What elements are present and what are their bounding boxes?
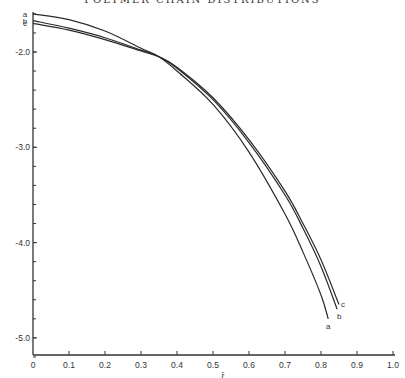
curve-end-label-a: a — [326, 322, 331, 331]
line-chart: 00.10.20.30.40.50.60.70.80.91.0-2.0-3.0-… — [0, 0, 405, 378]
curve-c — [33, 23, 339, 304]
x-tick-label: 0.9 — [351, 360, 363, 370]
y-tick-label: -5.0 — [15, 333, 30, 343]
curve-end-label-c: c — [341, 300, 345, 309]
curve-start-label-c: c — [23, 19, 27, 28]
y-tick-label: -2.0 — [15, 47, 30, 57]
x-tick-label: 0 — [31, 360, 36, 370]
x-tick-label: 1.0 — [387, 360, 399, 370]
curve-end-label-b: b — [337, 312, 342, 321]
y-tick-label: -4.0 — [15, 238, 30, 248]
x-tick-label: 0.7 — [279, 360, 291, 370]
x-tick-label: 0.2 — [99, 360, 111, 370]
x-axis-label: r̄ — [221, 371, 225, 378]
x-tick-label: 0.8 — [315, 360, 327, 370]
x-tick-label: 0.5 — [207, 360, 219, 370]
x-tick-label: 0.3 — [135, 360, 147, 370]
y-tick-label: -3.0 — [15, 142, 30, 152]
x-tick-label: 0.1 — [63, 360, 75, 370]
x-tick-label: 0.4 — [171, 360, 183, 370]
curve-a — [33, 14, 328, 319]
curve-b — [33, 21, 337, 310]
x-tick-label: 0.6 — [243, 360, 255, 370]
